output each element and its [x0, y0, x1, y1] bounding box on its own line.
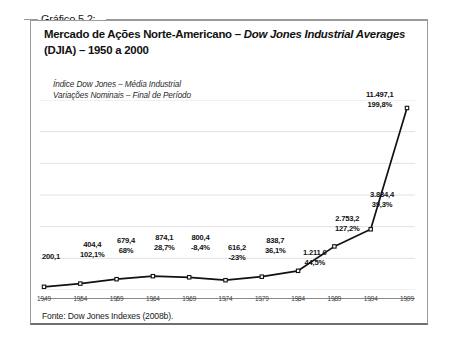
chart-data-label: 874,128,7%	[154, 233, 175, 252]
chart-data-label: 616,2-23%	[228, 243, 246, 262]
chart-data-label: 3.834,439,3%	[370, 190, 394, 209]
x-axis-tick-label: 1984	[291, 295, 305, 302]
x-axis-tick-label: 1949	[37, 295, 51, 302]
chart-data-marker	[79, 282, 82, 285]
chart-data-label: 2.753,2127,2%	[335, 214, 360, 233]
chart-data-marker	[333, 245, 336, 248]
chart-data-label-percent: 36,1%	[265, 246, 286, 256]
chart-data-marker	[296, 269, 299, 272]
chart-plot-area: 200,1404,4102,1%679,468%874,128,7%800,4-…	[40, 100, 415, 290]
chart-subtitle-line1: Índice Dow Jones – Média Industrial	[53, 80, 191, 91]
chart-data-label-value: 2.753,2	[335, 214, 359, 223]
figure-title-line1-italic: Dow Jones Industrial Averages	[244, 28, 405, 40]
figure-title: Mercado de Ações Norte-Americano – Dow J…	[44, 27, 416, 58]
chart-series-line	[44, 108, 407, 287]
figure-source-note: Fonte: Dow Jones Indexes (2008b).	[42, 311, 173, 321]
chart-data-label-value: 874,1	[155, 233, 173, 242]
chart-data-label: 11.497,1199,8%	[366, 90, 394, 109]
chart-data-label: 800,4-8,4%	[191, 233, 210, 252]
chart-data-marker	[405, 106, 408, 109]
chart-data-label-value: 838,7	[266, 236, 284, 245]
figure-title-line1-plain: Mercado de Ações Norte-Americano –	[44, 28, 244, 40]
chart-data-label: 679,468%	[117, 236, 135, 255]
chart-data-marker	[188, 276, 191, 279]
chart-data-label-percent: 102,1%	[80, 250, 105, 260]
chart-data-marker	[224, 279, 227, 282]
chart-data-marker	[151, 275, 154, 278]
chart-data-marker	[115, 278, 118, 281]
chart-data-label-percent: 68%	[117, 246, 135, 256]
chart-data-label: 1.211,644,5%	[303, 248, 327, 267]
chart-data-label-percent: -23%	[228, 253, 246, 263]
chart-data-label-value: 616,2	[228, 243, 246, 252]
chart-data-label-percent: 39,3%	[370, 200, 394, 210]
chart-data-label-percent: 199,8%	[366, 100, 394, 110]
chart-data-label: 838,736,1%	[265, 236, 286, 255]
chart-data-label-percent: 28,7%	[154, 243, 175, 253]
figure-title-line2: (DJIA) – 1950 a 2000	[44, 44, 149, 56]
chart-data-label-percent: -8,4%	[191, 243, 210, 253]
x-axis-tick-label: 1969	[182, 295, 196, 302]
chart-data-label-value: 800,4	[191, 233, 209, 242]
chart-data-marker	[369, 228, 372, 231]
chart-data-label-value: 404,4	[83, 240, 101, 249]
x-axis-tick-label: 1989	[327, 295, 341, 302]
x-axis-tick-label: 1954	[73, 295, 87, 302]
chart-data-label-value: 1.211,6	[303, 248, 327, 257]
chart-data-label-value: 11.497,1	[366, 90, 394, 99]
chart-data-label-percent: 44,5%	[303, 258, 327, 268]
chart-data-label-percent: 127,2%	[335, 224, 360, 234]
x-axis-tick-label: 1994	[364, 295, 378, 302]
chart-data-marker	[260, 275, 263, 278]
chart-data-label-value: 200,1	[42, 252, 60, 261]
x-axis-tick-label: 1999	[400, 295, 414, 302]
chart-x-axis: 1949195419591964196919741979198419891994…	[40, 290, 415, 306]
x-axis-tick-label: 1979	[255, 295, 269, 302]
chart-subtitle: Índice Dow Jones – Média Industrial Vari…	[53, 80, 191, 101]
chart-data-markers	[42, 106, 408, 288]
chart-data-label: 404,4102,1%	[80, 240, 105, 259]
x-axis-tick-label: 1959	[110, 295, 124, 302]
x-axis-tick-label: 1964	[146, 295, 160, 302]
x-axis-tick-label: 1974	[219, 295, 233, 302]
chart-data-label-value: 3.834,4	[370, 190, 394, 199]
chart-data-marker	[42, 285, 45, 288]
chart-data-label: 200,1	[42, 252, 60, 262]
chart-data-label-value: 679,4	[117, 236, 135, 245]
